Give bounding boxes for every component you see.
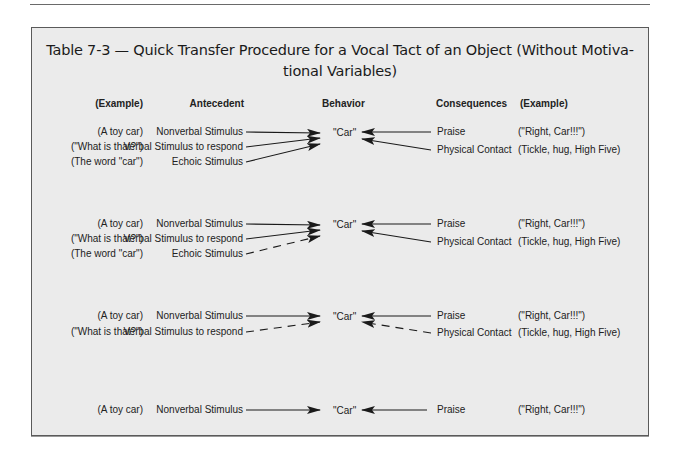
antecedent-label: Verbal Stimulus to respond <box>123 141 243 153</box>
consequence-example: (Tickle, hug, High Five) <box>518 236 620 248</box>
antecedent-example: (A toy car) <box>97 218 143 230</box>
antecedent-label: Nonverbal Stimulus <box>156 404 243 416</box>
behavior-label: "Car" <box>333 405 356 417</box>
antecedent-example: (A toy car) <box>97 310 143 322</box>
antecedent-example: (A toy car) <box>97 404 143 416</box>
header-example-right: (Example) <box>520 98 568 110</box>
antecedent-label: Nonverbal Stimulus <box>156 310 243 322</box>
consequence-example: ("Right, Car!!!") <box>518 310 585 322</box>
header-consequences: Consequences <box>436 98 507 110</box>
consequence-example: ("Right, Car!!!") <box>518 404 585 416</box>
consequence-label: Praise <box>437 126 465 138</box>
behavior-label: "Car" <box>333 127 356 139</box>
table-title: Table 7-3 — Quick Transfer Procedure for… <box>31 40 649 82</box>
consequence-label: Physical Contact <box>437 327 511 339</box>
title-line-2: tional Variables) <box>31 61 649 82</box>
consequence-example: ("Right, Car!!!") <box>518 126 585 138</box>
consequence-label: Praise <box>437 218 465 230</box>
consequence-example: (Tickle, hug, High Five) <box>518 144 620 156</box>
header-example-left: (Example) <box>95 98 143 110</box>
consequence-example: ("Right, Car!!!") <box>518 218 585 230</box>
header-behavior: Behavior <box>322 98 365 110</box>
consequence-example: (Tickle, hug, High Five) <box>518 327 620 339</box>
top-rule <box>30 4 650 5</box>
behavior-label: "Car" <box>333 219 356 231</box>
antecedent-label: Echoic Stimulus <box>172 156 243 168</box>
antecedent-label: Nonverbal Stimulus <box>156 126 243 138</box>
title-line-1: Table 7-3 — Quick Transfer Procedure for… <box>31 40 649 61</box>
table-box <box>31 27 649 436</box>
consequence-label: Physical Contact <box>437 144 511 156</box>
consequence-label: Praise <box>437 404 465 416</box>
consequence-label: Praise <box>437 310 465 322</box>
antecedent-label: Verbal Stimulus to respond <box>123 233 243 245</box>
antecedent-example: (The word "car") <box>71 248 143 260</box>
antecedent-example: (The word "car") <box>71 156 143 168</box>
antecedent-label: Verbal Stimulus to respond <box>123 326 243 338</box>
antecedent-label: Nonverbal Stimulus <box>156 218 243 230</box>
antecedent-label: Echoic Stimulus <box>172 248 243 260</box>
consequence-label: Physical Contact <box>437 236 511 248</box>
antecedent-example: (A toy car) <box>97 126 143 138</box>
behavior-label: "Car" <box>333 311 356 323</box>
header-antecedent: Antecedent <box>190 98 244 110</box>
